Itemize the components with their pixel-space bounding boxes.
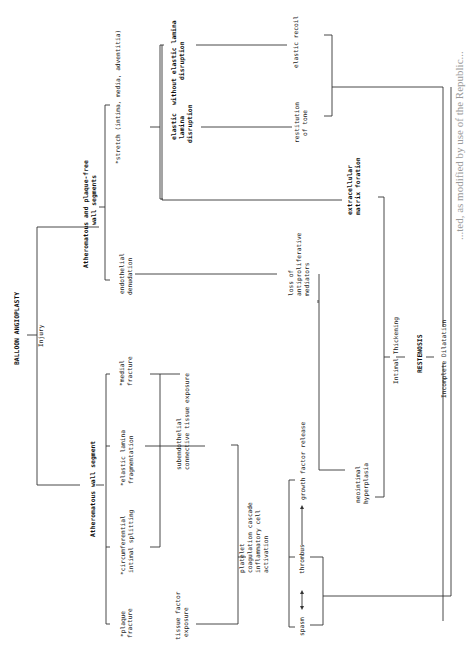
node-platelet-1: platelet (238, 543, 246, 573)
node-circumferential-1: *circumferential (119, 515, 126, 575)
node-atheromatous-wall-segment: Atheromatous wall segment (89, 441, 97, 537)
node-stretch: *stretch (intima, media, adventitia) (114, 30, 121, 164)
node-circumferential-2: intimal splitting (127, 509, 135, 573)
title-balloon-angioplasty: BALLOON ANGIOPLASTY (13, 292, 21, 365)
node-platelet-4: activation (262, 535, 269, 573)
connector-lines (27, 35, 451, 627)
node-elastic-fragmentation-1: *elastic lamina (119, 430, 126, 486)
node-medial-fracture-1: *medial (118, 360, 125, 386)
node-loss-of-mediators-3: mediators (303, 262, 310, 296)
node-subendothelial-1: subendothelial (175, 418, 182, 470)
node-plaque-free-line2: wall segments (90, 175, 98, 225)
node-subendothelial-2: connective tissue exposure (183, 373, 191, 470)
node-plaque-fracture-2: fracture (126, 608, 133, 638)
node-thrombus: thrombus (298, 544, 305, 574)
node-medial-fracture-2: fracture (126, 356, 133, 386)
caption-fragment: ...ted, as modified by use of the Republ… (453, 51, 465, 240)
node-tissue-factor-1: tissue factor (174, 591, 181, 640)
node-elastic-recoil: elastic recoil (292, 16, 299, 68)
node-spasm: spasm (298, 617, 306, 636)
node-restitution-1: restitution (293, 102, 300, 143)
node-extracellular-2: matrix foration (354, 157, 362, 215)
node-injury: Injury (37, 324, 45, 347)
node-neointimal-1: neointimal (354, 465, 361, 503)
node-plaque-free-line1: Atheromatous and plaque-free (82, 160, 90, 268)
node-loss-of-mediators-2: antiproliferative (295, 232, 303, 296)
node-restenosis: RESTENOSIS (416, 334, 424, 373)
node-endothelial-1: endothelial (118, 253, 125, 294)
node-without-elastic-1: without elastic lamina (170, 20, 178, 105)
labels: BALLOON ANGIOPLASTY Injury Atheromatous … (13, 16, 465, 640)
node-elastic-disruption-3: disruption (186, 104, 194, 143)
node-incomplete-dilatation: Incomplete Dilatation (440, 319, 448, 398)
node-restitution-2: of tone (301, 110, 308, 136)
node-intimal-thickening: Intimal Thickening (392, 317, 400, 384)
node-endothelial-2: denudation (126, 257, 133, 295)
node-neointimal-2: hyperplasia (362, 463, 370, 504)
node-growth-factor: growth factor release (299, 421, 307, 500)
node-elastic-disruption-1: elastic (170, 113, 178, 140)
node-platelet-3: inflammatory cell (254, 509, 262, 573)
node-loss-of-mediators-1: loss of (287, 270, 294, 296)
node-elastic-fragmentation-2: fragmentation (127, 435, 135, 484)
node-elastic-disruption-2: lamina (178, 116, 186, 139)
node-without-elastic-2: disruption (178, 41, 186, 80)
node-extracellular-1: extracellular (346, 165, 354, 215)
node-platelet-2: coagulation cascade (246, 502, 254, 573)
restenosis-flowchart: BALLOON ANGIOPLASTY Injury Atheromatous … (0, 0, 467, 653)
node-tissue-factor-2: exposure (182, 607, 190, 637)
